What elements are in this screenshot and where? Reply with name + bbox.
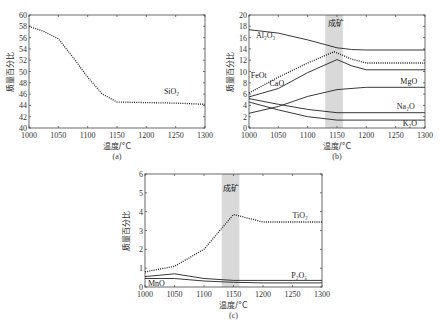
series-label: SiO₂ bbox=[164, 87, 179, 96]
y-tick-label: 4 bbox=[243, 101, 247, 110]
x-tick-label: 1100 bbox=[300, 131, 316, 140]
series-label: K₂O bbox=[403, 119, 418, 128]
x-tick-label: 1050 bbox=[167, 290, 183, 299]
x-tick-label: 1100 bbox=[80, 131, 96, 140]
y-tick-label: 40 bbox=[19, 124, 27, 133]
y-tick-label: 12 bbox=[239, 56, 247, 65]
y-tick-label: 58 bbox=[19, 22, 27, 31]
series-label: MgO bbox=[400, 77, 417, 86]
y-tick-label: 2 bbox=[243, 113, 247, 122]
y-tick-label: 50 bbox=[19, 68, 27, 77]
y-tick-label: 1 bbox=[139, 264, 143, 273]
y-tick-label: 2 bbox=[139, 245, 143, 254]
x-tick-label: 1150 bbox=[329, 131, 345, 140]
plot-frame bbox=[29, 15, 205, 128]
x-tick-label: 1300 bbox=[197, 131, 213, 140]
x-axis-label: 温度/°C bbox=[219, 300, 248, 310]
y-tick-label: 46 bbox=[19, 90, 27, 99]
y-tick-label: 6 bbox=[139, 170, 143, 179]
y-axis-label: 质量百分比 bbox=[5, 52, 15, 92]
x-tick-label: 1200 bbox=[358, 131, 374, 140]
y-tick-label: 8 bbox=[243, 79, 247, 88]
series-label: TiO₂ bbox=[293, 211, 309, 220]
x-tick-label: 1050 bbox=[270, 131, 286, 140]
y-tick-label: 0 bbox=[139, 283, 143, 292]
y-tick-label: 6 bbox=[243, 90, 247, 99]
x-axis-label: 温度/°C bbox=[103, 141, 132, 151]
x-tick-label: 1100 bbox=[196, 290, 212, 299]
panel-caption: (c) bbox=[229, 311, 238, 320]
y-tick-label: 60 bbox=[19, 11, 27, 20]
y-tick-label: 54 bbox=[19, 45, 27, 54]
x-tick-label: 1050 bbox=[50, 131, 66, 140]
x-tick-label: 1150 bbox=[226, 290, 242, 299]
series-label: 成矿 bbox=[223, 183, 239, 193]
series-label: Al₂O₃ bbox=[256, 31, 276, 40]
x-tick-label: 1250 bbox=[168, 131, 184, 140]
x-tick-label: 1200 bbox=[255, 290, 271, 299]
mineralization-band bbox=[325, 15, 343, 128]
y-tick-label: 44 bbox=[19, 101, 27, 110]
y-tick-label: 48 bbox=[19, 79, 27, 88]
y-tick-label: 52 bbox=[19, 56, 27, 65]
y-tick-label: 42 bbox=[19, 113, 27, 122]
panel-caption: (a) bbox=[113, 152, 122, 161]
y-tick-label: 20 bbox=[239, 11, 247, 20]
y-tick-label: 14 bbox=[239, 45, 247, 54]
chart-b: 1000105011001150120012501300024681012141… bbox=[225, 11, 433, 161]
series-label: CaO bbox=[270, 79, 285, 88]
x-tick-label: 1300 bbox=[314, 290, 330, 299]
x-tick-label: 1250 bbox=[285, 290, 301, 299]
chart-a: 1000105011001150120012501300404244464850… bbox=[5, 11, 213, 161]
y-tick-label: 0 bbox=[243, 124, 247, 133]
x-tick-label: 1200 bbox=[138, 131, 154, 140]
y-tick-label: 5 bbox=[139, 189, 143, 198]
chart-c: 10001050110011501200125013000123456TiO₂P… bbox=[121, 170, 330, 320]
chart-figure: 1000105011001150120012501300404244464850… bbox=[0, 0, 440, 328]
y-tick-label: 3 bbox=[139, 227, 143, 236]
y-tick-label: 56 bbox=[19, 34, 27, 43]
series-label: P₂O₅ bbox=[291, 271, 307, 280]
y-tick-label: 16 bbox=[239, 34, 247, 43]
x-axis-label: 温度/°C bbox=[323, 141, 352, 151]
y-axis-label: 质量百分比 bbox=[225, 52, 235, 92]
x-tick-label: 1250 bbox=[388, 131, 404, 140]
series-label: Na₂O bbox=[397, 102, 415, 111]
x-tick-label: 1300 bbox=[417, 131, 433, 140]
series-label: MnO bbox=[148, 279, 165, 288]
y-tick-label: 10 bbox=[239, 68, 247, 77]
y-tick-label: 18 bbox=[239, 22, 247, 31]
panel-caption: (b) bbox=[332, 152, 342, 161]
y-axis-label: 质量百分比 bbox=[121, 211, 131, 251]
series-label: 成矿 bbox=[328, 18, 344, 28]
series-label: FeOt bbox=[251, 71, 268, 80]
x-tick-label: 1150 bbox=[109, 131, 125, 140]
y-tick-label: 4 bbox=[139, 208, 143, 217]
